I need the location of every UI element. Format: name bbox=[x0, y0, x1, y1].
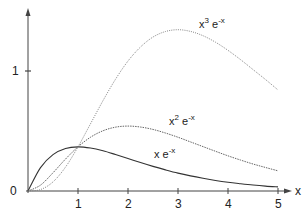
label-x3-exp: -x bbox=[218, 16, 225, 25]
label-x2-exp: -x bbox=[188, 113, 195, 122]
y-tick-label-1: 1 bbox=[12, 64, 19, 78]
x-tick-label-3: 3 bbox=[175, 197, 182, 211]
label-x3-e-neg-x: x3 e-x bbox=[199, 16, 225, 30]
curve-x-e-neg-x bbox=[28, 147, 278, 191]
label-x2-e-neg-x: x2 e-x bbox=[169, 113, 195, 127]
chart: x 0 1 1 2 3 4 5 x e-x x2 e-x x3 e-x bbox=[0, 0, 307, 218]
curve-x2-e-neg-x bbox=[28, 126, 278, 191]
axes: x 0 1 1 2 3 4 5 bbox=[10, 8, 301, 211]
label-x-e-neg-x-base: x e bbox=[154, 148, 169, 160]
x-axis-arrow-icon bbox=[284, 189, 292, 194]
label-x-e-neg-x: x e-x bbox=[154, 146, 175, 160]
x-tick-label-1: 1 bbox=[75, 197, 82, 211]
label-x2-e: e bbox=[179, 115, 188, 127]
label-x-e-neg-x-exp: -x bbox=[169, 146, 176, 155]
x-tick-label-5: 5 bbox=[275, 197, 282, 211]
label-x3-e: e bbox=[209, 18, 218, 30]
x-tick-label-4: 4 bbox=[225, 197, 232, 211]
y-axis-arrow-icon bbox=[26, 8, 31, 16]
x-axis-label: x bbox=[295, 184, 301, 198]
x-tick-label-2: 2 bbox=[125, 197, 132, 211]
y-tick-label-0: 0 bbox=[10, 184, 17, 198]
